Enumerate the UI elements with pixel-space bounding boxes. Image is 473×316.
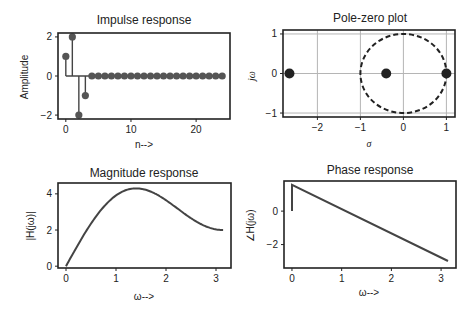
stem-marker: [199, 72, 206, 79]
phase-title: Phase response: [327, 163, 414, 177]
stem-marker: [134, 72, 141, 79]
y-tick-label: −1: [266, 108, 278, 119]
y-tick-label: 0: [46, 261, 52, 272]
magnitude-xlabel: ω-->: [134, 291, 154, 302]
magnitude-response-panel: Magnitude response |H(jω)| ω--> 0123420: [25, 166, 231, 302]
stem-marker: [127, 72, 134, 79]
x-tick-label: 0: [401, 122, 407, 133]
y-tick-label: −2: [267, 239, 279, 250]
y-tick-label: 0: [46, 71, 52, 82]
y-tick-label: 1: [271, 28, 277, 39]
y-tick-label: 0: [272, 206, 278, 217]
y-tick-label: −2: [41, 110, 53, 121]
pole-zero-marker: [284, 69, 294, 79]
phase-response-panel: Phase response ∠H(jω) ω--> 01230−2: [245, 163, 456, 298]
magnitude-plot-area: 0123420: [46, 183, 231, 284]
y-tick-label: 0: [271, 68, 277, 79]
figure: Impulse response Amplitude n--> 0102020−…: [0, 0, 473, 316]
impulse-xlabel: n-->: [135, 139, 153, 150]
x-tick-label: 0: [63, 273, 69, 284]
y-tick-label: 2: [46, 225, 52, 236]
stem-marker: [108, 72, 115, 79]
x-tick-label: 20: [191, 124, 203, 135]
y-tick-label: 4: [46, 188, 52, 199]
x-tick-label: 0: [289, 273, 295, 284]
stem-marker: [101, 72, 108, 79]
impulse-title: Impulse response: [97, 13, 192, 27]
phase-xlabel: ω-->: [359, 287, 379, 298]
response-curve: [66, 188, 223, 266]
impulse-plot-area: 0102020−2: [41, 31, 230, 135]
pole-zero-xlabel: σ: [367, 138, 373, 149]
stem-marker: [62, 53, 69, 60]
stem-marker: [140, 72, 147, 79]
pole-zero-marker: [381, 69, 391, 79]
stem-marker: [186, 72, 193, 79]
x-tick-label: 3: [438, 273, 444, 284]
stem-marker: [95, 72, 102, 79]
y-tick-label: 2: [46, 31, 52, 42]
stem-marker: [82, 92, 89, 99]
magnitude-ylabel: |H(jω)|: [25, 211, 36, 240]
phase-plot-area: 01230−2: [267, 181, 456, 284]
stem-marker: [69, 33, 76, 40]
x-tick-label: 1: [113, 273, 119, 284]
pole-zero-title: Pole-zero plot: [333, 11, 408, 25]
impulse-ylabel: Amplitude: [19, 54, 30, 99]
stem-marker: [212, 72, 219, 79]
stem-marker: [121, 72, 128, 79]
impulse-response-panel: Impulse response Amplitude n--> 0102020−…: [19, 13, 230, 150]
pole-zero-panel: Pole-zero plot jω σ −2−10110−1: [246, 11, 455, 149]
stem-marker: [153, 72, 160, 79]
stem-marker: [75, 111, 82, 118]
stem-marker: [193, 72, 200, 79]
stem-marker: [88, 72, 95, 79]
response-curve: [292, 185, 448, 261]
x-tick-label: 10: [125, 124, 137, 135]
stem-marker: [114, 72, 121, 79]
x-tick-label: 0: [63, 124, 69, 135]
x-tick-label: −2: [312, 122, 324, 133]
stem-marker: [219, 72, 226, 79]
stem-marker: [166, 72, 173, 79]
stem-marker: [147, 72, 154, 79]
magnitude-title: Magnitude response: [90, 166, 199, 180]
phase-ylabel: ∠H(jω): [245, 210, 256, 243]
stem-marker: [173, 72, 180, 79]
stem-marker: [179, 72, 186, 79]
stem-marker: [206, 72, 213, 79]
x-tick-label: 2: [389, 273, 395, 284]
x-tick-label: 2: [163, 273, 169, 284]
pole-zero-ylabel: jω: [246, 71, 257, 83]
x-tick-label: −1: [355, 122, 367, 133]
pole-zero-marker: [441, 69, 451, 79]
x-tick-label: 3: [213, 273, 219, 284]
pole-zero-plot-area: −2−10110−1: [266, 28, 455, 133]
x-tick-label: 1: [339, 273, 345, 284]
stem-marker: [160, 72, 167, 79]
x-tick-label: 1: [444, 122, 450, 133]
